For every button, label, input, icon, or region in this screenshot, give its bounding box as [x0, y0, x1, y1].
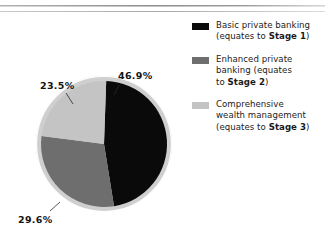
legend-swatch-comprehensive-icon: [192, 102, 209, 109]
legend-enhanced-stage: Stage 2: [228, 77, 265, 87]
legend-basic-stage: Stage 1: [269, 31, 306, 41]
legend-comprehensive-stage: Stage 3: [269, 122, 306, 132]
legend-basic-line1: Basic private banking: [216, 20, 310, 30]
legend-enhanced-line2: banking (equates: [216, 65, 292, 75]
legend-label-comprehensive: Comprehensive wealth management (equates…: [216, 99, 309, 133]
legend-item-comprehensive[interactable]: Comprehensive wealth management (equates…: [192, 99, 323, 133]
pie-label-comprehensive: 23.5%: [40, 80, 74, 91]
legend-swatch-basic-icon: [192, 23, 209, 30]
legend-comprehensive-line3-prefix: (equates to: [216, 122, 269, 132]
chart-legend: Basic private banking (equates to Stage …: [192, 20, 323, 144]
legend-enhanced-line3-suffix: ): [265, 77, 268, 87]
legend-comprehensive-line1: Comprehensive: [216, 99, 284, 109]
pie-chart: 46.9% 23.5% 29.6%: [0, 16, 190, 248]
header-rule-bottom: [0, 11, 325, 12]
legend-label-basic: Basic private banking (equates to Stage …: [216, 20, 310, 43]
leader-line-enhanced: [50, 202, 60, 211]
header-rule-top-shadow: [0, 6, 325, 7]
pie-label-basic: 46.9%: [118, 70, 152, 81]
pie-label-enhanced: 29.6%: [18, 214, 52, 225]
legend-comprehensive-line2: wealth management: [216, 110, 306, 120]
header-rules: [0, 0, 325, 16]
legend-basic-line2-prefix: (equates to: [216, 31, 269, 41]
legend-enhanced-line3-prefix: to: [216, 77, 228, 87]
legend-comprehensive-line3-suffix: ): [306, 122, 309, 132]
legend-label-enhanced: Enhanced private banking (equates to Sta…: [216, 54, 292, 88]
legend-swatch-enhanced-icon: [192, 57, 209, 64]
legend-basic-line2-suffix: ): [306, 31, 309, 41]
pie-slice-basic[interactable]: [104, 81, 167, 206]
legend-item-basic[interactable]: Basic private banking (equates to Stage …: [192, 20, 323, 43]
pie-slice-enhanced[interactable]: [41, 136, 114, 207]
legend-enhanced-line1: Enhanced private: [216, 54, 292, 64]
legend-item-enhanced[interactable]: Enhanced private banking (equates to Sta…: [192, 54, 323, 88]
